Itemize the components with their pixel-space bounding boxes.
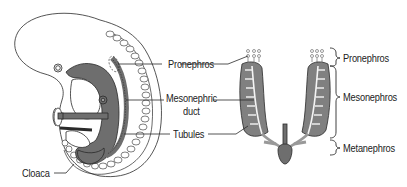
- label-metanephros: Metanephros: [343, 142, 395, 154]
- label-tubules: Tubules: [173, 128, 204, 140]
- label-mesonephric-duct-line2: duct: [183, 105, 200, 117]
- label-mesonephric-duct-line1: Mesonephric: [166, 92, 217, 104]
- embryo-illustration: [15, 13, 170, 176]
- brace-group: [330, 48, 340, 155]
- label-cloaca: Cloaca: [22, 167, 50, 179]
- label-mesonephros: Mesonephros: [343, 91, 397, 103]
- label-pronephros-left: Pronephros: [168, 58, 214, 70]
- label-pronephros-right: Pronephros: [343, 52, 389, 64]
